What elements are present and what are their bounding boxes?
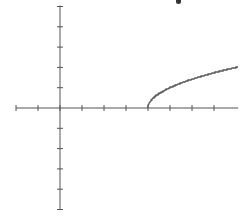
sqrt-curve [148,67,238,108]
function-graph [0,0,252,217]
axes [16,6,238,210]
